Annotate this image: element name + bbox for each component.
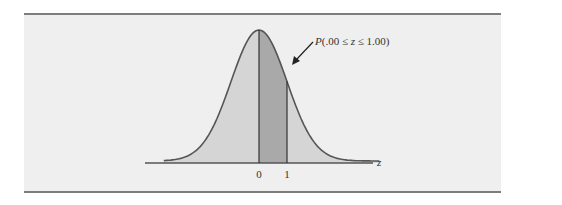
tick-label-0: 0: [256, 168, 262, 180]
tick-label-1: 1: [284, 168, 290, 180]
z-axis-label: z: [376, 156, 382, 168]
normal-curve-diagram: z 0 1 P(.00 ≤ z ≤ 1.00): [0, 0, 562, 205]
shaded-probability-area: [259, 30, 287, 163]
annotation-arrow: [296, 42, 313, 60]
probability-annotation: P(.00 ≤ z ≤ 1.00): [314, 35, 390, 48]
